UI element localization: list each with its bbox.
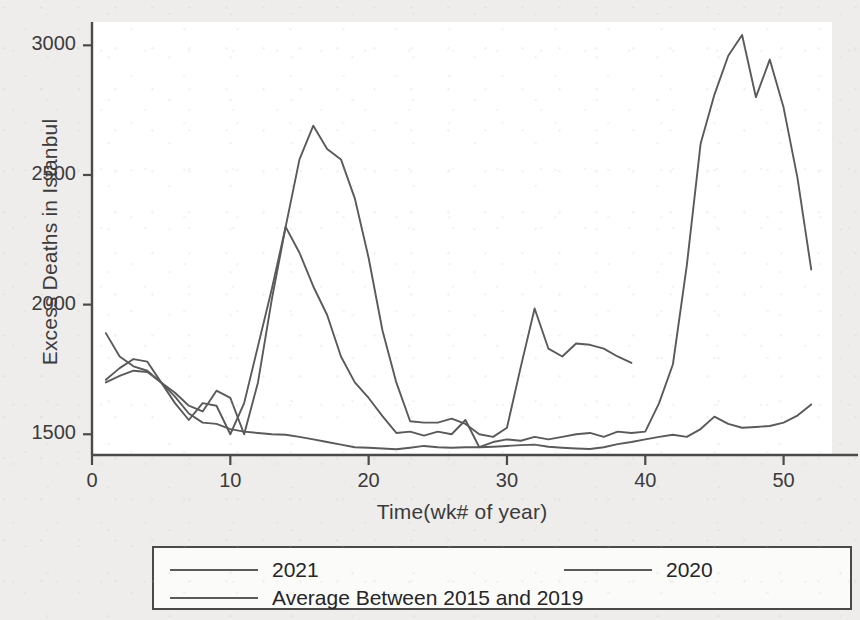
- legend-label: 2020: [666, 558, 713, 582]
- legend-swatch-line-icon: [170, 597, 258, 599]
- legend-label: 2021: [272, 558, 319, 582]
- y-tick-label: 2500: [6, 162, 76, 185]
- y-tick-label: 1500: [6, 421, 76, 444]
- legend-entry-average: Average Between 2015 and 2019: [170, 584, 583, 612]
- legend-entry-2021: 2021: [170, 556, 319, 584]
- x-tick-label: 40: [615, 469, 675, 492]
- plot-area: [0, 0, 860, 620]
- chart-legend: 2021 2020 Average Between 2015 and 2019: [152, 546, 852, 610]
- legend-swatch-line-icon: [564, 569, 652, 571]
- plot-background: [92, 22, 832, 455]
- y-tick-label: 3000: [6, 32, 76, 55]
- legend-swatch-line-icon: [170, 569, 258, 571]
- y-tick-label: 2000: [6, 292, 76, 315]
- x-tick-label: 0: [62, 469, 122, 492]
- x-tick-label: 50: [754, 469, 814, 492]
- x-tick-label: 20: [339, 469, 399, 492]
- x-tick-label: 30: [477, 469, 537, 492]
- legend-entry-2020: 2020: [564, 556, 713, 584]
- legend-label: Average Between 2015 and 2019: [272, 586, 583, 610]
- chart-figure: Excess Deaths in Istanbul Time(wk# of ye…: [0, 0, 860, 620]
- x-tick-label: 10: [200, 469, 260, 492]
